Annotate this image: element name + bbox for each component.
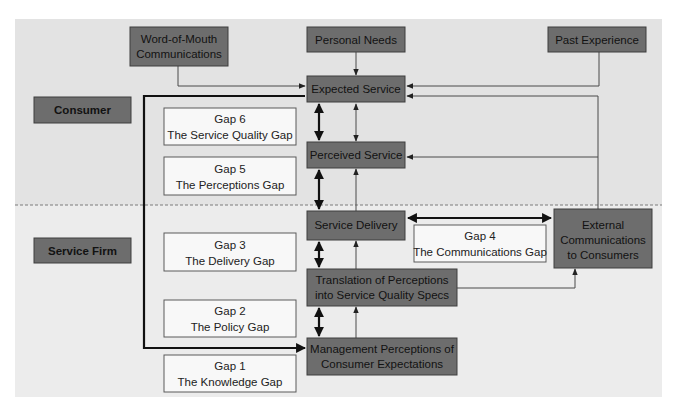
gap2-box: Gap 2 The Policy Gap (164, 300, 296, 337)
gap-model-diagram: Consumer Service Firm Word-of-Mouth Comm… (0, 0, 680, 410)
perceived-service-box: Perceived Service (307, 142, 405, 168)
gap6-title: The Service Quality Gap (167, 129, 292, 141)
gap6-number: Gap 6 (214, 113, 245, 125)
word-of-mouth-line1: Word-of-Mouth (141, 33, 217, 45)
consumer-label: Consumer (34, 97, 131, 123)
management-line1: Management Perceptions of (310, 343, 455, 355)
service-firm-label-text: Service Firm (48, 245, 117, 257)
management-perceptions-box: Management Perceptions of Consumer Expec… (307, 338, 457, 375)
gap5-box: Gap 5 The Perceptions Gap (164, 157, 296, 195)
word-of-mouth-line2: Communications (136, 48, 222, 60)
gap4-title: The Communications Gap (413, 246, 547, 258)
service-firm-label: Service Firm (34, 238, 131, 263)
word-of-mouth-box: Word-of-Mouth Communications (130, 27, 228, 66)
gap6-box: Gap 6 The Service Quality Gap (164, 108, 296, 145)
service-delivery-text: Service Delivery (314, 219, 397, 231)
gap1-title: The Knowledge Gap (178, 376, 283, 388)
gap5-title: The Perceptions Gap (176, 179, 285, 191)
gap4-number: Gap 4 (464, 230, 496, 242)
gap4-box: Gap 4 The Communications Gap (413, 225, 547, 262)
past-experience-box: Past Experience (548, 27, 646, 52)
external-comm-line3: to Consumers (567, 249, 639, 261)
external-comm-line2: Communications (560, 234, 646, 246)
consumer-label-text: Consumer (54, 104, 111, 116)
management-line2: Consumer Expectations (321, 358, 443, 370)
expected-service-box: Expected Service (307, 76, 405, 102)
translation-line2: into Service Quality Specs (315, 289, 449, 301)
translation-line1: Translation of Perceptions (315, 274, 448, 286)
gap2-title: The Policy Gap (191, 321, 270, 333)
service-delivery-box: Service Delivery (307, 211, 405, 240)
gap1-number: Gap 1 (214, 360, 245, 372)
personal-needs-box: Personal Needs (307, 27, 405, 52)
gap3-number: Gap 3 (214, 239, 245, 251)
perceived-service-text: Perceived Service (310, 149, 403, 161)
personal-needs-text: Personal Needs (315, 34, 397, 46)
gap3-box: Gap 3 The Delivery Gap (164, 233, 296, 271)
gap5-number: Gap 5 (214, 163, 245, 175)
external-communications-box: External Communications to Consumers (554, 209, 652, 268)
past-experience-text: Past Experience (555, 34, 639, 46)
translation-box: Translation of Perceptions into Service … (307, 269, 457, 306)
external-comm-line1: External (582, 219, 624, 231)
gap3-title: The Delivery Gap (185, 255, 274, 267)
gap2-number: Gap 2 (214, 305, 245, 317)
expected-service-text: Expected Service (311, 83, 401, 95)
gap1-box: Gap 1 The Knowledge Gap (164, 355, 296, 392)
